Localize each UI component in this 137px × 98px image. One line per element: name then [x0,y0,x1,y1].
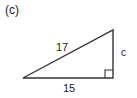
horizontal-leg-length-label: 15 [63,82,75,94]
right-angle-marker-icon [105,70,113,78]
geometry-figure: (c) 17 c 15 [0,0,137,98]
hypotenuse-length-label: 17 [56,41,68,53]
triangle-outline [23,30,113,78]
vertical-leg-label: c [121,47,126,59]
